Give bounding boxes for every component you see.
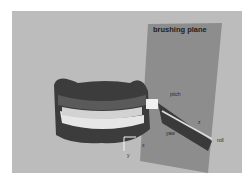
x-axis-label: x <box>142 142 145 148</box>
pitch-label: pitch <box>170 91 181 97</box>
brushing-plane <box>140 23 222 173</box>
dentition-model <box>54 78 150 143</box>
y-axis-label: y <box>127 152 130 158</box>
scene: brushing plane pitch yaw roll x y z <box>12 11 242 173</box>
scene-illustration <box>12 11 242 173</box>
z-axis-label: z <box>198 119 201 125</box>
figure-title: brushing plane <box>153 25 207 34</box>
yaw-label: yaw <box>166 130 175 136</box>
roll-label: roll <box>217 137 224 143</box>
